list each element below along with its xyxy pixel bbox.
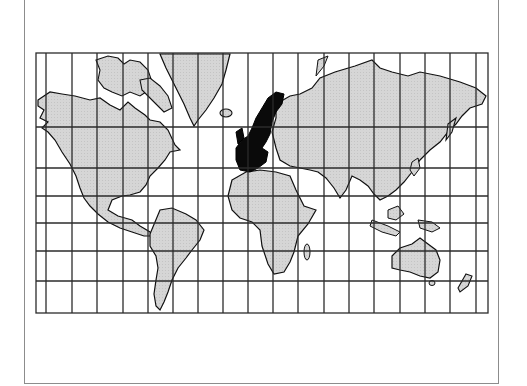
land-novaya-zemlya [316,56,328,76]
land-new-guinea [418,220,440,232]
land-iceland [220,109,232,117]
land-new-zealand [458,274,472,292]
land-borneo [388,206,404,220]
land-baffin [140,78,172,112]
land-asia [272,60,486,200]
landmasses [38,54,486,310]
world-map [0,0,527,386]
land-australia [392,238,440,278]
land-madagascar [304,244,310,260]
land-africa [228,170,316,274]
land-greenland [160,54,230,126]
